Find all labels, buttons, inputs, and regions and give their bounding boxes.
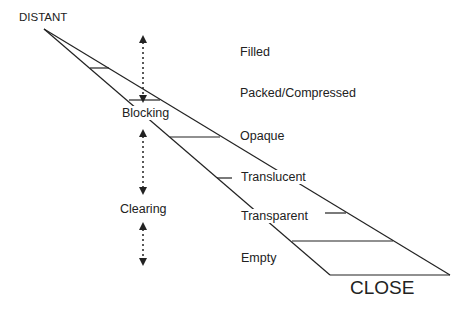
label-packed-compressed: Packed/Compressed: [239, 86, 357, 100]
label-clearing: Clearing: [119, 202, 168, 216]
label-close: CLOSE: [349, 277, 415, 299]
lower-edge-line: [44, 29, 330, 275]
label-blocking: Blocking: [121, 106, 170, 120]
arrow-down-icon: [139, 95, 147, 103]
label-opaque: Opaque: [239, 129, 285, 143]
label-distant: DISTANT: [18, 11, 68, 23]
label-translucent: Translucent: [240, 170, 307, 184]
arrow-up-icon: [139, 35, 147, 43]
upper-edge-line: [44, 29, 450, 275]
wedge-diagram: [0, 0, 466, 313]
arrow-up-icon: [139, 222, 147, 230]
label-empty: Empty: [240, 251, 277, 265]
arrow-up-icon: [139, 129, 147, 137]
label-filled: Filled: [239, 45, 271, 59]
arrow-down-icon: [139, 187, 147, 195]
arrow-down-icon: [139, 258, 147, 266]
label-transparent: Transparent: [240, 209, 309, 223]
